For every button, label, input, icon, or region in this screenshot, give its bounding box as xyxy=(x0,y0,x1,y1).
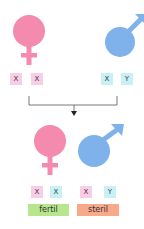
chromosome-box: X xyxy=(80,186,92,198)
diagram-graphics xyxy=(0,0,144,229)
chromosome-box: Y xyxy=(104,186,116,198)
chromosome-box: X xyxy=(10,73,22,85)
chromosome-box: X xyxy=(31,186,43,198)
female-symbol-icon xyxy=(13,15,45,65)
female-symbol-icon xyxy=(34,125,66,175)
chromosome-box: X xyxy=(101,73,113,85)
arrow-down-icon xyxy=(71,111,77,116)
fertil-label: fertil xyxy=(28,204,69,216)
chromosome-box: X xyxy=(50,186,62,198)
steril-label: steril xyxy=(77,204,119,216)
male-symbol-icon xyxy=(78,124,124,167)
cross-bracket xyxy=(29,96,117,111)
chromosome-box: Y xyxy=(121,73,133,85)
male-symbol-icon xyxy=(105,14,144,57)
chromosome-box: X xyxy=(31,73,43,85)
